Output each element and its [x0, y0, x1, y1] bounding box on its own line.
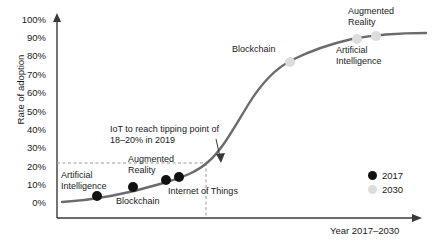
tipping-point-annotation: IoT to reach tipping point of 18–20% in … [110, 124, 219, 145]
data-point-blockchain-2030 [285, 57, 295, 67]
y-tick-60: 60% [6, 88, 46, 98]
y-tick-30: 30% [6, 143, 46, 153]
y-tick-90: 90% [6, 33, 46, 43]
y-tick-80: 80% [6, 51, 46, 61]
label-blockchain-2017: Blockchain [116, 196, 160, 207]
x-axis-title: Year 2017–2030 [330, 225, 399, 236]
legend-item-2017: 2017 [368, 168, 403, 182]
label-augmented-reality-2017: Augmented Reality [128, 154, 174, 175]
y-tick-0: 0% [6, 198, 46, 208]
legend-label-2030: 2030 [382, 184, 403, 195]
y-tick-40: 40% [6, 125, 46, 135]
data-point-blockchain-2017 [128, 182, 138, 192]
label-internet-of-things-2017: Internet of Things [168, 186, 238, 197]
y-tick-20: 20% [6, 162, 46, 172]
label-artificial-intelligence-2030: Artificial Intelligence [336, 45, 382, 66]
y-axis-arrow [53, 13, 61, 22]
legend-label-2017: 2017 [382, 170, 403, 181]
x-axis-arrow [412, 214, 422, 222]
chart-canvas [0, 0, 433, 244]
data-point-augmented-reality-2017 [161, 175, 171, 185]
y-axis [53, 13, 61, 218]
legend-item-2030: 2030 [368, 182, 403, 196]
label-blockchain-2030: Blockchain [232, 44, 276, 55]
y-tick-100: 100% [6, 15, 46, 25]
data-point-augmented-reality-2030 [371, 31, 381, 41]
data-point-artificial-intelligence-2017 [92, 191, 102, 201]
y-tick-10: 10% [6, 180, 46, 190]
data-point-internet-of-things-2017 [174, 172, 184, 182]
chart-legend: 2017 2030 [368, 168, 403, 196]
legend-marker-2030-icon [368, 185, 377, 194]
label-artificial-intelligence-2017: Artificial Intelligence [61, 170, 107, 191]
x-axis [57, 214, 422, 222]
chart-container: 100% 90% 80% 70% 60% 50% 40% 30% 20% 10%… [0, 0, 433, 244]
y-axis-title: Rate of adoption [15, 40, 26, 140]
label-augmented-reality-2030: Augmented Reality [348, 6, 394, 27]
y-tick-70: 70% [6, 70, 46, 80]
data-point-artificial-intelligence-2030 [352, 34, 362, 44]
y-tick-50: 50% [6, 107, 46, 117]
legend-marker-2017-icon [368, 171, 377, 180]
